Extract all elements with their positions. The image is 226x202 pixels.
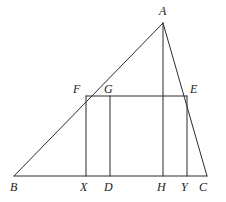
- vertex-label-f: F: [73, 83, 80, 95]
- vertex-label-h: H: [157, 181, 166, 193]
- vertex-label-e: E: [190, 83, 197, 95]
- segment-ba: [14, 23, 163, 176]
- vertex-label-b: B: [10, 181, 17, 193]
- segments-group: [14, 23, 207, 176]
- geometry-canvas: [0, 0, 226, 202]
- vertex-label-x: X: [80, 181, 87, 193]
- vertex-label-g: G: [104, 83, 113, 95]
- vertex-label-a: A: [159, 5, 166, 17]
- vertex-label-y: Y: [181, 181, 188, 193]
- segment-ac: [163, 23, 207, 176]
- geometry-figure: ABCFGEXDHY: [0, 0, 226, 202]
- vertex-label-c: C: [199, 181, 207, 193]
- vertex-label-d: D: [104, 181, 113, 193]
